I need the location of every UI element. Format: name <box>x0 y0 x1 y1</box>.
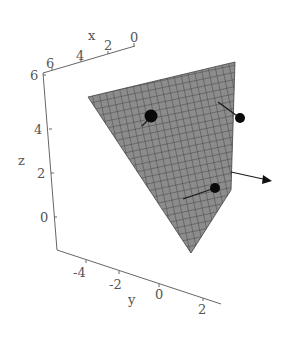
arrowhead-icon <box>262 175 272 184</box>
x-tick-0: 0 <box>130 30 138 45</box>
x-tick-2: 2 <box>104 38 112 53</box>
point-marker-2 <box>235 113 245 123</box>
3d-surface-plot: x z y 6 4 2 0 6 4 2 0 -4 -2 0 2 <box>0 0 290 340</box>
plot-canvas: x z y 6 4 2 0 6 4 2 0 -4 -2 0 2 <box>0 0 290 340</box>
z-tick-6: 6 <box>30 68 38 83</box>
point-marker-1 <box>145 110 158 123</box>
y-tick-neg2: -2 <box>109 277 122 292</box>
point-marker-3 <box>210 183 220 193</box>
z-axis-title: z <box>18 153 25 168</box>
mesh-surface <box>60 40 260 270</box>
x-axis-title: x <box>88 28 96 43</box>
z-tick-0: 0 <box>40 210 48 225</box>
z-tick-2: 2 <box>37 166 45 181</box>
z-tick-4: 4 <box>34 122 42 137</box>
vector-2 <box>231 172 263 179</box>
x-tick-4: 4 <box>76 48 84 63</box>
x-axis-line <box>43 46 135 73</box>
y-axis-title: y <box>127 292 136 307</box>
y-tick-2: 2 <box>198 302 206 317</box>
y-tick-0: 0 <box>155 287 163 302</box>
y-tick-neg4: -4 <box>73 265 86 280</box>
x-tick-6: 6 <box>46 56 54 71</box>
